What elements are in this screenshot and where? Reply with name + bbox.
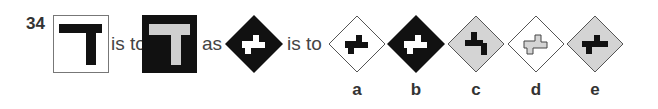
option-c-figure[interactable] [447, 15, 505, 73]
connector-as: as [202, 32, 222, 56]
connector-is-to: is to [111, 32, 146, 56]
option-b-label[interactable]: b [406, 80, 426, 100]
option-b-figure[interactable] [387, 15, 445, 73]
option-e-label[interactable]: e [585, 80, 605, 100]
option-d-figure[interactable] [507, 15, 565, 73]
question-number: 34 [26, 14, 45, 34]
premise-second-figure [142, 15, 198, 74]
option-c-label[interactable]: c [466, 80, 486, 100]
option-a-label[interactable]: a [347, 80, 367, 100]
premise-first-figure [53, 15, 110, 74]
premise-third-figure [225, 15, 283, 73]
option-e-figure[interactable] [566, 15, 624, 73]
connector-is-to: is to [287, 32, 322, 56]
option-a-figure[interactable] [328, 15, 386, 73]
option-d-label[interactable]: d [526, 80, 546, 100]
